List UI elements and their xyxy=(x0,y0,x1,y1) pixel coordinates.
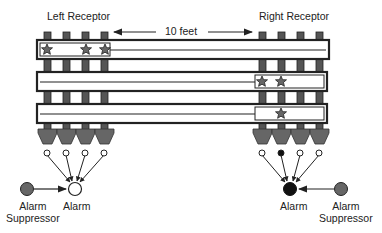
funnel-icon xyxy=(57,129,76,144)
left-suppressor-label: Alarm Suppressor xyxy=(6,201,60,224)
funnel-icon xyxy=(76,129,95,144)
bar-2 xyxy=(37,72,327,91)
right-suppressor-node xyxy=(335,183,348,196)
bar-3-stimulus-zone xyxy=(255,107,324,120)
left-receptor-label: Left Receptor xyxy=(47,11,110,23)
right-signal-node-1 xyxy=(259,150,265,156)
left-funnels xyxy=(38,129,114,144)
left-alarm-group xyxy=(21,183,82,196)
funnel-icon xyxy=(95,129,114,144)
bar-1 xyxy=(37,40,329,59)
funnel-icon xyxy=(310,129,329,144)
funnel-icon xyxy=(38,129,57,144)
left-signal-node-2 xyxy=(63,150,69,156)
left-alarm-label: Alarm xyxy=(63,201,90,213)
left-suppressor-label-line1: Alarm xyxy=(6,201,60,213)
right-funnels xyxy=(253,129,329,144)
right-alarm-node-active xyxy=(284,183,297,196)
left-alarm-node xyxy=(69,183,82,196)
right-alarm-group xyxy=(284,183,348,196)
funnel-icon xyxy=(272,129,291,144)
left-suppressor-label-line2: Suppressor xyxy=(6,213,60,225)
funnel-icon xyxy=(291,129,310,144)
right-alarm-label: Alarm xyxy=(280,201,307,213)
right-suppressor-label-line2: Suppressor xyxy=(319,213,373,225)
right-suppressor-label: Alarm Suppressor xyxy=(319,201,373,224)
left-signal-node-4 xyxy=(101,150,107,156)
distance-label: 10 feet xyxy=(165,26,197,38)
right-signal-nodes xyxy=(259,150,322,182)
right-receptor-label: Right Receptor xyxy=(259,11,329,23)
right-suppressor-label-line1: Alarm xyxy=(319,201,373,213)
left-signal-nodes xyxy=(44,150,107,182)
left-signal-node-1 xyxy=(44,150,50,156)
left-suppressor-node xyxy=(21,183,34,196)
right-signal-node-2-active xyxy=(278,150,284,156)
funnel-icon xyxy=(253,129,272,144)
left-signal-node-3 xyxy=(82,150,88,156)
right-signal-node-3 xyxy=(297,150,303,156)
right-signal-node-4 xyxy=(316,150,322,156)
bar-3 xyxy=(37,104,327,123)
